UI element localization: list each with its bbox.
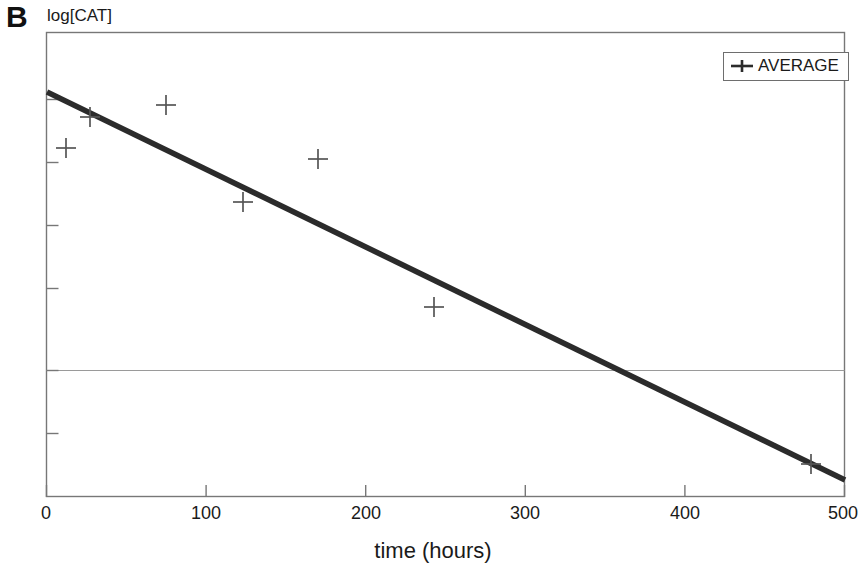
data-point-marker bbox=[156, 95, 176, 115]
x-tick-label: 200 bbox=[351, 503, 381, 524]
x-tick-label: 400 bbox=[670, 503, 700, 524]
data-point-marker bbox=[233, 192, 253, 212]
data-point-marker bbox=[424, 297, 444, 317]
legend-entry-label: AVERAGE bbox=[758, 56, 839, 76]
data-point-marker bbox=[56, 138, 76, 158]
x-axis-label: time (hours) bbox=[0, 538, 866, 564]
trend-line-average bbox=[47, 92, 845, 480]
data-point-marker bbox=[308, 149, 328, 169]
legend: AVERAGE bbox=[723, 52, 849, 81]
x-axis-ticks bbox=[47, 485, 845, 497]
x-tick-label: 0 bbox=[41, 503, 51, 524]
plot-area bbox=[0, 0, 866, 575]
y-axis-ticks bbox=[47, 100, 59, 434]
x-tick-label: 500 bbox=[828, 503, 858, 524]
x-tick-label: 100 bbox=[191, 503, 221, 524]
figure-panel-b: B log[CAT] bbox=[0, 0, 866, 575]
x-tick-label: 300 bbox=[510, 503, 540, 524]
plus-line-marker-icon bbox=[731, 59, 753, 73]
